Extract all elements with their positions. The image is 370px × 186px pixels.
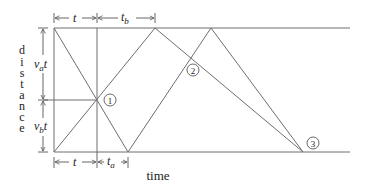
trajectory-a-return xyxy=(211,28,303,152)
top-t-label: t xyxy=(73,11,77,25)
left-vbt-label: vbt xyxy=(34,119,48,135)
left-vat-label: vat xyxy=(34,57,48,73)
svg-text:e: e xyxy=(19,121,24,135)
x-axis-label: time xyxy=(146,168,169,183)
point-1-label: 1 xyxy=(108,96,113,106)
bottom-t-label: t xyxy=(73,155,77,169)
trajectory-b-return xyxy=(155,28,303,152)
trajectory-a-down xyxy=(54,28,128,152)
bottom-ta-label: ta xyxy=(107,154,115,170)
y-axis-label: d i s t a n c e xyxy=(19,43,25,135)
top-tb-label: tb xyxy=(121,10,129,26)
distance-time-diagram: t tb t ta vat vbt d i s t a n c e time 1… xyxy=(0,0,370,186)
point-3-label: 3 xyxy=(311,139,316,149)
point-2-label: 2 xyxy=(191,66,196,76)
